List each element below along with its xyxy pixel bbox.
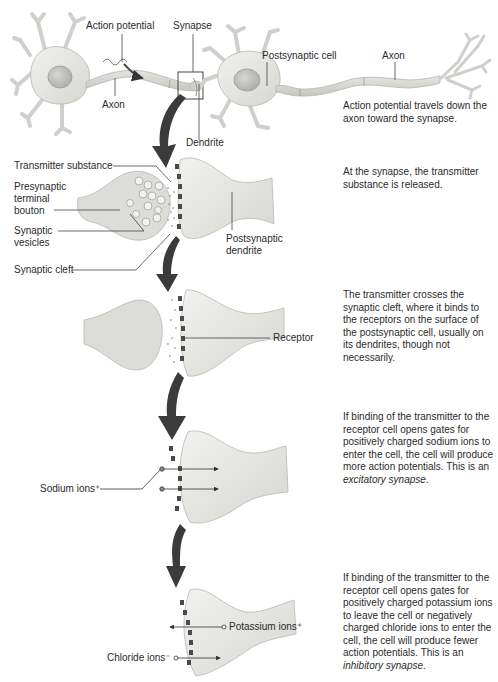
label-transmitter-substance: Transmitter substance <box>14 160 113 172</box>
postsynaptic-dendrite-3 <box>181 290 284 376</box>
flow-arrow-2-icon <box>156 236 180 292</box>
label-presynaptic-1: Presynaptic <box>14 181 66 193</box>
label-dendrite: Dendrite <box>186 137 224 149</box>
label-postsynaptic-cell: Postsynaptic cell <box>262 50 336 62</box>
label-synaptic-vesicles-1: Synaptic <box>14 225 52 237</box>
flow-arrow-4-icon <box>166 524 186 588</box>
flow-arrow-1-icon <box>152 94 186 168</box>
description-action-potential: Action potential travels down the axon t… <box>343 100 495 125</box>
description-transmitter-release: At the synapse, the transmitter substanc… <box>343 166 495 191</box>
description-inhibitory: If binding of the transmitter to the rec… <box>343 572 495 672</box>
receptors-4 <box>169 446 182 511</box>
postsynaptic-dendrite-2 <box>178 158 274 239</box>
presynaptic-terminal-3 <box>84 300 162 370</box>
flow-arrow-3-icon <box>158 372 186 440</box>
term-excitatory-synapse: excitatory synapse <box>343 474 426 485</box>
transmitter-particles-3 <box>167 299 177 363</box>
label-synaptic-vesicles-2: vesicles <box>14 237 50 249</box>
label-axon-presynaptic: Axon <box>102 99 125 111</box>
label-postsynaptic-dendrite-1: Postsynaptic <box>226 233 283 245</box>
description-receptor-binding: The transmitter crosses the synaptic cle… <box>343 289 495 364</box>
presynaptic-terminal-bouton <box>78 171 171 240</box>
label-sodium-ions: Sodium ions⁺ <box>40 483 100 495</box>
action-potential-wave <box>103 59 127 65</box>
label-postsynaptic-dendrite-2: dendrite <box>226 245 262 257</box>
label-action-potential: Action potential <box>86 20 154 32</box>
label-chloride-ions: Chloride ions⁻ <box>107 652 170 664</box>
label-potassium-ions: Potassium ions⁺ <box>229 621 302 633</box>
description-excitatory: If binding of the transmitter to the rec… <box>343 411 495 486</box>
label-receptor: Receptor <box>273 332 314 344</box>
postsynaptic-dendrite-4 <box>180 431 288 523</box>
label-synapse: Synapse <box>173 20 212 32</box>
term-inhibitory-synapse: inhibitory synapse <box>343 660 423 671</box>
label-presynaptic-2: terminal <box>14 193 50 205</box>
label-presynaptic-bouton: bouton <box>14 205 45 217</box>
label-axon-postsynaptic: Axon <box>382 50 405 62</box>
label-synaptic-cleft: Synaptic cleft <box>14 264 73 276</box>
